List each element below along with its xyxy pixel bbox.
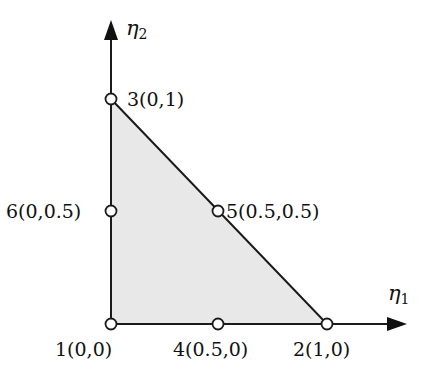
node-2	[322, 319, 333, 330]
node-4-label: 4(0.5,0)	[173, 338, 248, 360]
node-1-label: 1(0,0)	[55, 338, 112, 360]
eta2-axis-label: η2	[126, 16, 148, 42]
eta1-axis-label: η1	[388, 281, 410, 307]
node-6	[106, 206, 117, 217]
triangle-element-diagram: η2 η1 1(0,0) 2(1,0) 3(0,1) 4(0.5,0) 5(0.…	[0, 0, 425, 373]
eta2-arrow-icon	[104, 20, 118, 40]
node-3-label: 3(0,1)	[127, 88, 184, 110]
node-1	[106, 319, 117, 330]
node-4	[213, 319, 224, 330]
node-2-label: 2(1,0)	[293, 338, 350, 360]
node-6-label: 6(0,0.5)	[6, 200, 81, 222]
eta1-arrow-icon	[387, 317, 407, 331]
node-5-label: 5(0.5,0.5)	[226, 200, 319, 222]
node-3	[106, 94, 117, 105]
node-5	[213, 206, 224, 217]
